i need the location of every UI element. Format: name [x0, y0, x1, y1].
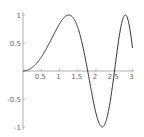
line-chart: 0.511.522.53 -1-0.50.51: [0, 0, 144, 137]
x-tick-label: 0.5: [35, 73, 46, 81]
y-ticks: -1-0.50.51: [7, 12, 25, 132]
x-tick-label: 1.5: [71, 73, 82, 81]
y-tick-label: -0.5: [7, 96, 21, 104]
x-tick-label: 2: [93, 73, 97, 81]
x-tick-label: 3: [129, 73, 133, 81]
y-tick-label: -1: [14, 124, 21, 132]
y-tick-label: 0.5: [10, 40, 21, 48]
y-tick-label: 1: [17, 12, 21, 20]
x-tick-label: 1: [56, 73, 60, 81]
